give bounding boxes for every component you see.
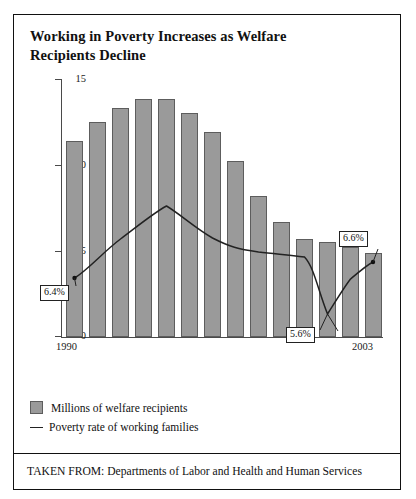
figure-source-note: TAKEN FROM: Departments of Labor and Hea… bbox=[27, 465, 387, 478]
x-axis-label-first: 1990 bbox=[56, 341, 77, 352]
callout-low-rate: 5.6% bbox=[286, 327, 315, 343]
legend-bar-swatch-icon bbox=[30, 401, 43, 414]
legend-bar-label: Millions of welfare recipients bbox=[51, 402, 187, 414]
legend-line-label: Poverty rate of working families bbox=[49, 421, 198, 433]
chart-plot-area: 15 10 5 0 bbox=[30, 75, 384, 387]
chart-legend: Millions of welfare recipients Poverty r… bbox=[30, 401, 370, 440]
legend-line-swatch-icon bbox=[30, 427, 43, 428]
figure-page: Working in Poverty Increases as Welfare … bbox=[0, 0, 416, 499]
figure-title: Working in Poverty Increases as Welfare … bbox=[30, 27, 330, 65]
poverty-rate-line bbox=[62, 75, 383, 337]
footer-divider bbox=[14, 453, 400, 454]
figure-frame: Working in Poverty Increases as Welfare … bbox=[13, 14, 401, 490]
callout-end-rate: 6.6% bbox=[339, 231, 368, 247]
legend-row-bars: Millions of welfare recipients bbox=[30, 401, 370, 414]
callout-start-rate: 6.4% bbox=[40, 285, 69, 301]
legend-row-line: Poverty rate of working families bbox=[30, 421, 370, 433]
page-corner-mark bbox=[403, 0, 413, 8]
x-axis-label-last: 2003 bbox=[352, 341, 373, 352]
